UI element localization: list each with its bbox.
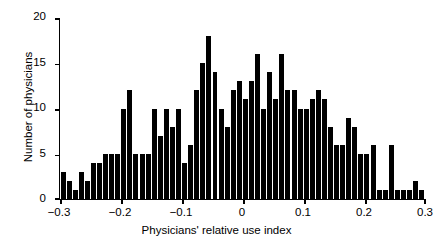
histogram-bar <box>395 190 400 199</box>
histogram-bar <box>298 109 303 200</box>
histogram-bar <box>267 72 272 199</box>
x-tick-mark <box>424 199 426 204</box>
histogram-bar <box>334 145 339 199</box>
histogram-bar <box>194 90 199 199</box>
histogram-bar <box>243 99 248 199</box>
y-tick-label: 0 <box>24 193 46 205</box>
x-tick-label: 0.3 <box>405 206 433 218</box>
y-tick-label: 20 <box>24 11 46 23</box>
x-tick-mark <box>243 199 245 204</box>
histogram-bar <box>103 154 108 199</box>
histogram-bar <box>383 190 388 199</box>
histogram-bar <box>249 81 254 199</box>
histogram-bar <box>419 190 424 199</box>
y-tick-mark <box>55 155 60 157</box>
histogram-bar <box>285 90 290 199</box>
histogram-bar <box>73 190 78 199</box>
histogram-bar <box>158 136 163 199</box>
histogram-bar <box>358 154 363 199</box>
histogram-bar <box>140 154 145 199</box>
histogram-bar <box>213 72 218 199</box>
histogram-bar <box>152 109 157 200</box>
x-tick-label: 0 <box>222 206 262 218</box>
histogram-bar <box>316 90 321 199</box>
x-tick-mark <box>182 199 184 204</box>
histogram-bar <box>170 127 175 199</box>
histogram-bar <box>61 172 66 199</box>
histogram-bar <box>127 90 132 199</box>
y-tick-mark <box>55 18 60 20</box>
x-tick-label: 0.1 <box>283 206 323 218</box>
x-tick-mark <box>365 199 367 204</box>
histogram-bar <box>389 145 394 199</box>
histogram-bar <box>115 154 120 199</box>
histogram-bar <box>97 163 102 199</box>
histogram-figure: Number of physicians 05101520 −0.3−0.2−0… <box>0 0 433 244</box>
histogram-bar <box>79 172 84 199</box>
histogram-bar <box>322 99 327 199</box>
y-tick-mark <box>55 64 60 66</box>
histogram-bar <box>109 154 114 199</box>
histogram-bar <box>261 109 266 200</box>
histogram-bar <box>377 190 382 199</box>
x-tick-label: −0.2 <box>100 206 140 218</box>
histogram-bar <box>279 54 284 199</box>
y-tick-label: 15 <box>24 57 46 69</box>
x-tick-mark <box>60 199 62 204</box>
histogram-bar <box>188 145 193 199</box>
x-axis-label: Physicians' relative use index <box>0 224 433 236</box>
histogram-bar <box>364 154 369 199</box>
histogram-bar <box>164 109 169 200</box>
histogram-bar <box>310 99 315 199</box>
histogram-bar <box>206 36 211 199</box>
histogram-bar <box>182 163 187 199</box>
histogram-bar <box>67 181 72 199</box>
histogram-bar <box>352 127 357 199</box>
histogram-bar <box>91 163 96 199</box>
y-tick-label: 5 <box>24 148 46 160</box>
histogram-bar <box>273 99 278 199</box>
x-tick-label: 0.2 <box>344 206 384 218</box>
plot-area <box>59 18 425 200</box>
histogram-bar <box>340 145 345 199</box>
histogram-bar <box>200 63 205 199</box>
histogram-bar <box>371 145 376 199</box>
x-tick-mark <box>121 199 123 204</box>
histogram-bar <box>133 154 138 199</box>
histogram-bar <box>401 190 406 199</box>
histogram-bar <box>292 90 297 199</box>
histogram-bar <box>231 90 236 199</box>
y-tick-label: 10 <box>24 102 46 114</box>
histogram-bar <box>407 190 412 199</box>
histogram-bar <box>121 109 126 200</box>
histogram-bar <box>304 109 309 200</box>
histogram-bar <box>255 54 260 199</box>
histogram-bar <box>346 118 351 199</box>
x-tick-label: −0.1 <box>161 206 201 218</box>
histogram-bar <box>176 109 181 200</box>
histogram-bars <box>60 18 425 199</box>
x-tick-label: −0.3 <box>39 206 79 218</box>
histogram-bar <box>237 81 242 199</box>
histogram-bar <box>219 109 224 200</box>
x-tick-mark <box>304 199 306 204</box>
y-tick-mark <box>55 109 60 111</box>
histogram-bar <box>146 154 151 199</box>
histogram-bar <box>328 127 333 199</box>
histogram-bar <box>225 127 230 199</box>
histogram-bar <box>85 181 90 199</box>
histogram-bar <box>413 181 418 199</box>
